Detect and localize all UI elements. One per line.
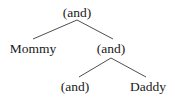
- edge-root-to-and-mid: [77, 20, 113, 39]
- edge-root-to-mommy: [33, 20, 77, 39]
- edge-and-mid-to-and-low: [79, 58, 111, 77]
- tree-node-middle-and: (and): [97, 42, 125, 56]
- syntax-tree-figure: (and) Mommy (and) (and) Daddy: [0, 0, 175, 102]
- tree-node-lower-and: (and): [61, 80, 89, 94]
- tree-node-daddy: Daddy: [130, 80, 166, 94]
- tree-node-mommy: Mommy: [10, 42, 57, 56]
- edge-and-mid-to-daddy: [111, 58, 146, 77]
- tree-node-root-and: (and): [63, 6, 91, 20]
